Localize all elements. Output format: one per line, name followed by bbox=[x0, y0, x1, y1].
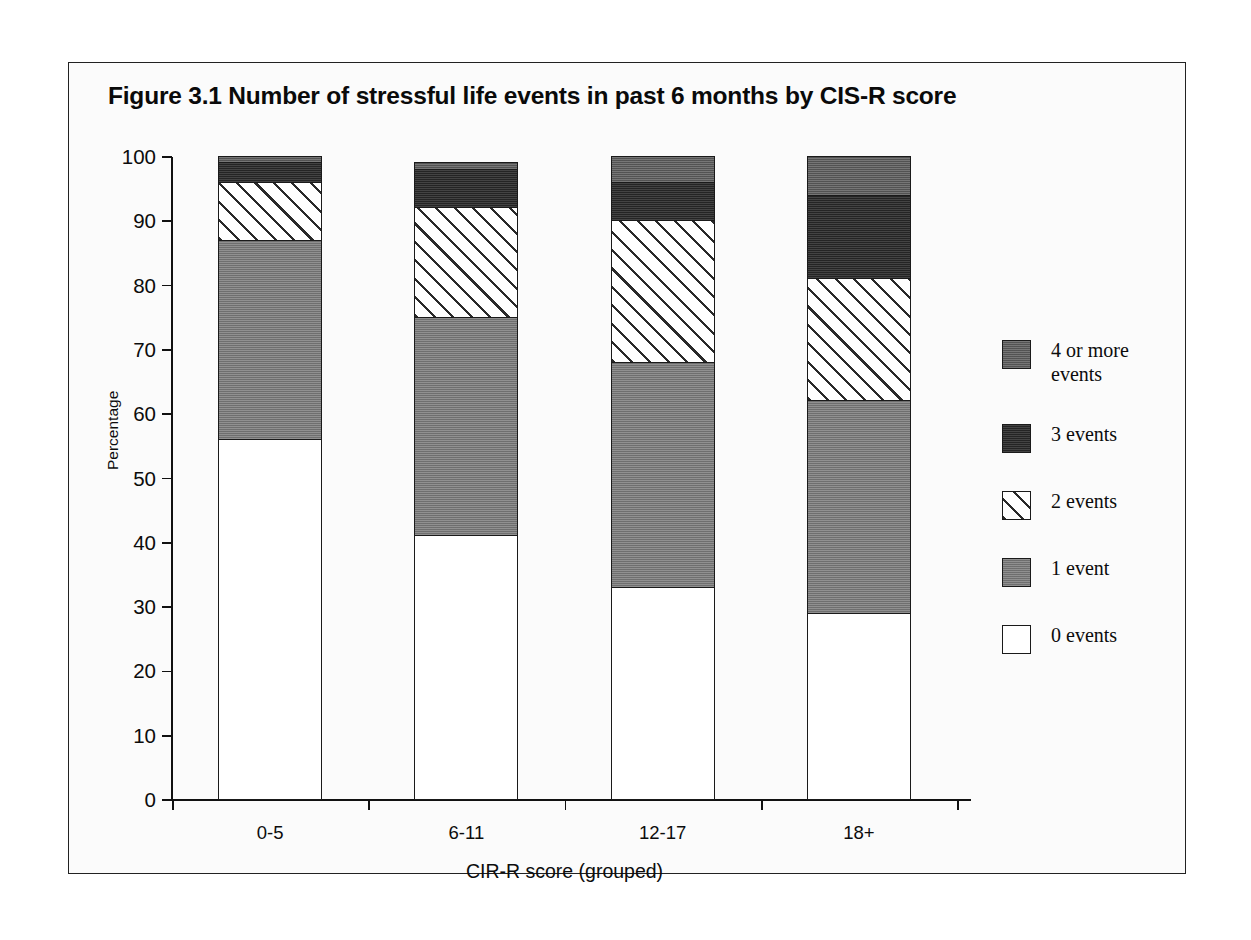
figure-page: Figure 3.1 Number of stressful life even… bbox=[0, 0, 1251, 940]
y-tick-label: 40 bbox=[133, 531, 156, 555]
bar-12-17[interactable] bbox=[611, 157, 715, 800]
bar-segment[interactable] bbox=[414, 168, 518, 208]
legend: 4 or more events3 events2 events1 event0… bbox=[1002, 338, 1177, 690]
legend-item-label: 4 or more events bbox=[1051, 338, 1129, 386]
bar-segment[interactable] bbox=[611, 586, 715, 800]
legend-swatch-icon bbox=[1002, 558, 1031, 587]
bar-segment[interactable] bbox=[414, 162, 518, 170]
y-tick-label: 30 bbox=[133, 595, 156, 619]
y-axis-title: Percentage bbox=[104, 391, 122, 470]
y-tick-mark bbox=[162, 413, 172, 415]
bar-18+[interactable] bbox=[807, 157, 911, 800]
bar-segment[interactable] bbox=[807, 612, 911, 800]
x-tick-label: 0-5 bbox=[257, 822, 284, 844]
bar-segment[interactable] bbox=[807, 156, 911, 196]
y-tick-mark bbox=[162, 349, 172, 351]
legend-swatch-icon bbox=[1002, 424, 1031, 453]
legend-item[interactable]: 2 events bbox=[1002, 489, 1177, 520]
y-tick-mark bbox=[162, 735, 172, 737]
x-tick-label: 18+ bbox=[843, 822, 874, 844]
y-tick-label: 20 bbox=[133, 659, 156, 683]
y-tick-label: 70 bbox=[133, 338, 156, 362]
y-tick-mark bbox=[162, 606, 172, 608]
y-tick-label: 90 bbox=[133, 209, 156, 233]
page-title: Figure 3.1 Number of stressful life even… bbox=[108, 82, 956, 110]
x-tick-label: 12-17 bbox=[639, 822, 686, 844]
x-tick-mark bbox=[172, 800, 174, 810]
legend-item[interactable]: 1 event bbox=[1002, 556, 1177, 587]
legend-swatch-icon bbox=[1002, 340, 1031, 369]
bar-0-5[interactable] bbox=[218, 157, 322, 800]
bar-segment[interactable] bbox=[611, 361, 715, 587]
legend-item-label: 1 event bbox=[1051, 556, 1109, 580]
bar-segment[interactable] bbox=[611, 220, 715, 363]
y-tick-mark bbox=[162, 542, 172, 544]
bar-segment[interactable] bbox=[218, 239, 322, 440]
plot-area: 1009080706050403020100 0-56-1112-1718+ C… bbox=[172, 157, 957, 800]
bar-segment[interactable] bbox=[807, 400, 911, 614]
legend-item-label: 3 events bbox=[1051, 422, 1117, 446]
bar-segment[interactable] bbox=[807, 278, 911, 402]
y-tick-mark bbox=[162, 156, 172, 158]
y-tick-mark bbox=[162, 799, 172, 801]
y-tick-mark bbox=[162, 285, 172, 287]
y-tick-label: 80 bbox=[133, 274, 156, 298]
bar-segment[interactable] bbox=[218, 181, 322, 240]
x-tick-mark bbox=[957, 800, 959, 810]
bar-segment[interactable] bbox=[611, 156, 715, 183]
y-tick-mark bbox=[162, 671, 172, 673]
legend-swatch-icon bbox=[1002, 491, 1031, 520]
legend-item[interactable]: 4 or more events bbox=[1002, 338, 1177, 386]
y-tick-label: 100 bbox=[122, 145, 156, 169]
y-tick-label: 0 bbox=[145, 788, 156, 812]
legend-item[interactable]: 0 events bbox=[1002, 623, 1177, 654]
legend-swatch-icon bbox=[1002, 625, 1031, 654]
y-tick-mark bbox=[162, 478, 172, 480]
y-tick-label: 50 bbox=[133, 467, 156, 491]
bar-segment[interactable] bbox=[218, 162, 322, 183]
x-tick-label: 6-11 bbox=[449, 822, 485, 844]
bar-segment[interactable] bbox=[218, 156, 322, 164]
x-tick-mark bbox=[565, 800, 567, 810]
y-tick-mark bbox=[162, 220, 172, 222]
bar-segment[interactable] bbox=[807, 194, 911, 279]
bar-segment[interactable] bbox=[414, 316, 518, 536]
legend-item-label: 2 events bbox=[1051, 489, 1117, 513]
y-tick-label: 60 bbox=[133, 402, 156, 426]
x-tick-mark bbox=[368, 800, 370, 810]
legend-item-label: 0 events bbox=[1051, 623, 1117, 647]
bar-segment[interactable] bbox=[611, 181, 715, 221]
bar-segment[interactable] bbox=[414, 207, 518, 318]
bar-segment[interactable] bbox=[218, 439, 322, 800]
bar-segment[interactable] bbox=[414, 535, 518, 800]
x-axis-title: CIR-R score (grouped) bbox=[172, 860, 957, 883]
y-tick-label: 10 bbox=[133, 724, 156, 748]
x-tick-mark bbox=[761, 800, 763, 810]
bar-6-11[interactable] bbox=[414, 157, 518, 800]
legend-item[interactable]: 3 events bbox=[1002, 422, 1177, 453]
